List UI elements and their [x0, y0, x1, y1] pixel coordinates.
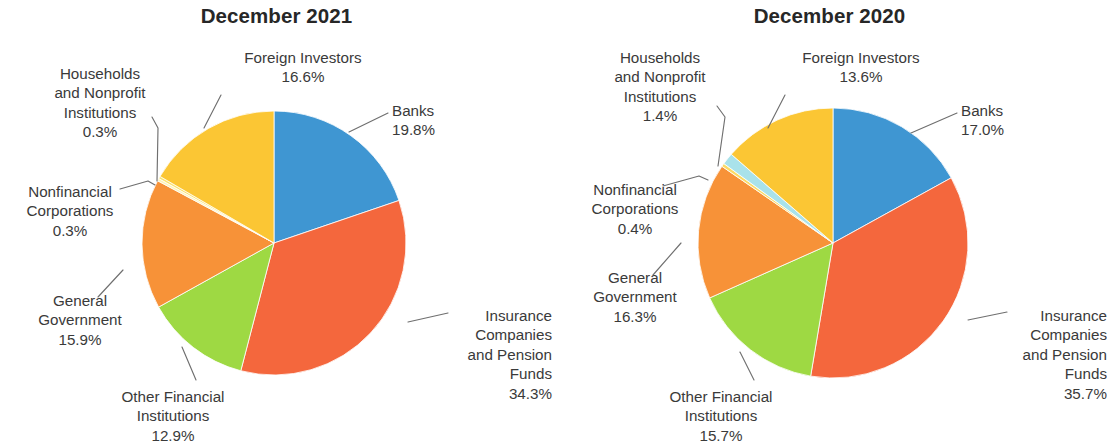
pie-label-percent: 0.3%: [0, 221, 140, 240]
pie-label-percent: 16.3%: [555, 307, 715, 326]
pie-label-banks: Banks17.0%: [961, 101, 1091, 140]
pie-label-nonfinancial-corporations: Nonfinancial Corporations0.4%: [555, 180, 715, 238]
pie-label-name: Insurance Companies and Pension Funds: [468, 307, 552, 382]
pie-label-name: Banks: [961, 102, 1003, 119]
pie-panel-december-2021: December 2021Banks 19.8%Insurance Compan…: [0, 0, 553, 443]
pie-label-name: General Government: [38, 292, 122, 328]
pie-label-name: Households and Nonprofit Institutions: [614, 49, 705, 105]
pie-label-percent: 1.4%: [575, 106, 745, 125]
pie-label-banks: Banks19.8%: [392, 101, 522, 140]
pie-panel-december-2020: December 2020Banks 17%Insurance Companie…: [553, 0, 1106, 443]
pie-label-percent: 17.0%: [961, 120, 1091, 139]
leader-line-other-financial-institutions: [740, 352, 754, 380]
pie-label-percent: 19.8%: [392, 120, 522, 139]
pie-label-name: General Government: [593, 269, 677, 305]
pie-label-name: Insurance Companies and Pension Funds: [1023, 307, 1107, 382]
pie-label-name: Foreign Investors: [802, 49, 919, 66]
pie-label-insurance-companies-and-pension-funds: Insurance Companies and Pension Funds35.…: [957, 306, 1107, 403]
pie-label-insurance-companies-and-pension-funds: Insurance Companies and Pension Funds34.…: [400, 306, 552, 403]
pie-label-percent: 34.3%: [400, 384, 552, 403]
leader-line-banks: [911, 113, 957, 133]
pie-label-name: Other Financial Institutions: [122, 388, 225, 424]
pie-label-percent: 35.7%: [957, 384, 1107, 403]
leader-line-banks: [349, 113, 388, 132]
leader-line-other-financial-institutions: [182, 347, 196, 380]
pie-label-nonfinancial-corporations: Nonfinancial Corporations0.3%: [0, 182, 140, 240]
pie-label-general-government: General Government16.3%: [555, 268, 715, 326]
pie-label-percent: 0.4%: [555, 219, 715, 238]
pie-label-households-and-nonprofit-institutions: Households and Nonprofit Institutions0.3…: [20, 64, 180, 142]
pie-label-percent: 12.9%: [98, 426, 248, 443]
pie-label-name: Foreign Investors: [244, 49, 361, 66]
pie-label-foreign-investors: Foreign Investors16.6%: [228, 48, 378, 87]
pie-label-name: Nonfinancial Corporations: [27, 183, 114, 219]
pie-label-general-government: General Government15.9%: [10, 291, 150, 349]
pie-label-percent: 0.3%: [20, 122, 180, 141]
pie-label-name: Other Financial Institutions: [670, 388, 773, 424]
pie-label-percent: 15.9%: [10, 330, 150, 349]
pie-label-foreign-investors: Foreign Investors13.6%: [781, 48, 941, 87]
pie-label-percent: 15.7%: [631, 426, 811, 443]
pie-label-other-financial-institutions: Other Financial Institutions12.9%: [98, 387, 248, 443]
pie-label-other-financial-institutions: Other Financial Institutions15.7%: [631, 387, 811, 443]
pie-label-percent: 16.6%: [228, 67, 378, 86]
pie-label-name: Nonfinancial Corporations: [592, 181, 679, 217]
pie-label-name: Households and Nonprofit Institutions: [54, 65, 145, 121]
pie-label-name: Banks: [392, 102, 434, 119]
pie-label-households-and-nonprofit-institutions: Households and Nonprofit Institutions1.4…: [575, 48, 745, 126]
pie-label-percent: 13.6%: [781, 67, 941, 86]
